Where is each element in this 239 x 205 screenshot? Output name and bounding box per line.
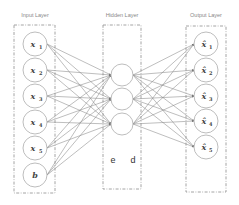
- connection-edge: [133, 75, 194, 121]
- connection-edge: [133, 121, 194, 124]
- input-layer-title: Input Layer: [21, 12, 49, 18]
- input-node-x4: x 4: [23, 110, 47, 134]
- hidden-layer-title: Hidden Layer: [106, 12, 139, 18]
- node-label: x: [30, 117, 36, 127]
- connection-edge: [133, 44, 194, 124]
- node-subscript: 4: [39, 122, 43, 128]
- output-node-xhat3: x̂ 3: [194, 84, 218, 108]
- node-label: x: [30, 91, 36, 101]
- connection-edge: [47, 44, 111, 99]
- connection-edge: [47, 124, 111, 175]
- connection-edge: [133, 75, 194, 147]
- decoder-label: d: [130, 155, 135, 165]
- connection-edge: [133, 44, 194, 99]
- node-label: x̂: [201, 65, 207, 75]
- input-node-x5: x 5: [23, 136, 47, 160]
- input-node-x3: x 3: [23, 84, 47, 108]
- node-subscript: 4: [209, 121, 213, 127]
- encoder-label: e: [110, 155, 115, 165]
- connection-edge: [133, 96, 194, 99]
- connection-edge: [133, 44, 194, 75]
- output-node-xhat2: x̂ 2: [194, 58, 218, 82]
- connection-edge: [133, 96, 194, 124]
- input-node-x2: x 2: [23, 58, 47, 82]
- output-node-xhat4: x̂ 4: [194, 109, 218, 133]
- connection-edge: [47, 124, 111, 148]
- connection-edge: [47, 44, 111, 75]
- connection-edge: [133, 124, 194, 147]
- node-subscript: 2: [39, 70, 43, 76]
- node-subscript: 3: [39, 96, 43, 102]
- node-label: x̂: [201, 91, 207, 101]
- input-to-hidden-connections: [47, 44, 111, 175]
- hidden-node-1: [111, 64, 133, 86]
- output-node-xhat1: x̂ 1: [194, 32, 218, 56]
- hidden-node-2: [111, 88, 133, 110]
- input-node-x1: x 1: [23, 32, 47, 56]
- output-layer-title: Output Layer: [190, 12, 222, 18]
- input-node-bias: b: [23, 163, 47, 187]
- node-label: x: [30, 39, 36, 49]
- hidden-node-3: [111, 113, 133, 135]
- hidden-to-output-connections: [133, 44, 194, 147]
- node-subscript: 5: [39, 148, 43, 154]
- node-label: x̂: [201, 142, 207, 152]
- connection-edge: [47, 44, 111, 124]
- node-label: x: [30, 143, 36, 153]
- node-subscript: 2: [209, 70, 213, 76]
- node-label: x̂: [201, 39, 207, 49]
- connection-edge: [47, 75, 111, 175]
- node-label: x: [30, 65, 36, 75]
- node-subscript: 1: [39, 44, 42, 50]
- connection-edge: [133, 99, 194, 147]
- node-subscript: 5: [209, 147, 213, 153]
- node-subscript: 1: [209, 44, 212, 50]
- node-subscript: 3: [209, 96, 213, 102]
- node-label: b: [32, 170, 38, 180]
- output-node-xhat5: x̂ 5: [194, 135, 218, 159]
- node-label: x̂: [201, 116, 207, 126]
- neural-network-diagram: Input Layer Hidden Layer Output Layer x …: [0, 0, 239, 205]
